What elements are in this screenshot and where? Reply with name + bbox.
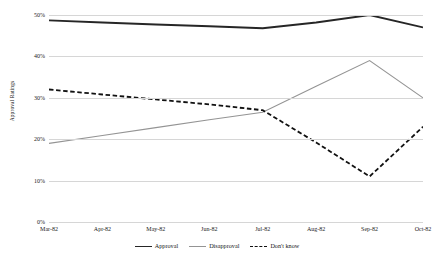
legend-swatch-icon xyxy=(189,246,206,247)
x-axis-tick-label: Oct-82 xyxy=(415,226,432,232)
y-axis-tick-label: 0% xyxy=(19,219,45,225)
y-axis-tick-label: 40% xyxy=(19,53,45,59)
y-axis-tick-labels: 0%10%20%30%40%50% xyxy=(17,15,45,222)
y-axis-tick-label: 20% xyxy=(19,136,45,142)
gridline xyxy=(49,181,423,182)
series-line-don-t-know xyxy=(49,90,423,177)
x-axis-tick-label: Apr-82 xyxy=(94,226,111,232)
legend-swatch-icon xyxy=(250,246,267,247)
x-axis-tick-label: Jul-82 xyxy=(255,226,270,232)
gridline xyxy=(49,98,423,99)
series-line-approval xyxy=(49,15,423,28)
x-axis-tick-label: Mar-82 xyxy=(40,226,58,232)
legend-item-disapproval[interactable]: Disapproval xyxy=(189,243,239,249)
line-chart: Approval Ratings 0%10%20%30%40%50% Mar-8… xyxy=(0,0,434,262)
y-axis-tick-label: 10% xyxy=(19,178,45,184)
legend-item-approval[interactable]: Approval xyxy=(135,243,178,249)
legend-item-label: Approval xyxy=(155,243,178,249)
x-axis-tick-labels: Mar-82Apr-82May-82Jun-82Jul-82Aug-82Sep-… xyxy=(49,226,423,238)
x-axis-tick-label: Aug-82 xyxy=(307,226,325,232)
legend-item-label: Don't know xyxy=(270,243,299,249)
y-axis-title: Approval Ratings xyxy=(9,56,15,146)
x-axis-tick-label: Jun-82 xyxy=(201,226,217,232)
legend-item-don-t-know[interactable]: Don't know xyxy=(250,243,299,249)
plot-area xyxy=(49,15,423,222)
series-line-disapproval xyxy=(49,61,423,144)
x-axis-tick-label: May-82 xyxy=(146,226,165,232)
chart-legend: ApprovalDisapprovalDon't know xyxy=(0,243,434,249)
x-axis-tick-label: Sep-82 xyxy=(361,226,378,232)
series-lines xyxy=(49,15,423,222)
y-axis-tick-label: 30% xyxy=(19,95,45,101)
legend-swatch-icon xyxy=(135,246,152,247)
gridline xyxy=(49,15,423,16)
gridline xyxy=(49,139,423,140)
gridline xyxy=(49,222,423,223)
legend-item-label: Disapproval xyxy=(209,243,239,249)
gridline xyxy=(49,56,423,57)
y-axis-tick-label: 50% xyxy=(19,12,45,18)
